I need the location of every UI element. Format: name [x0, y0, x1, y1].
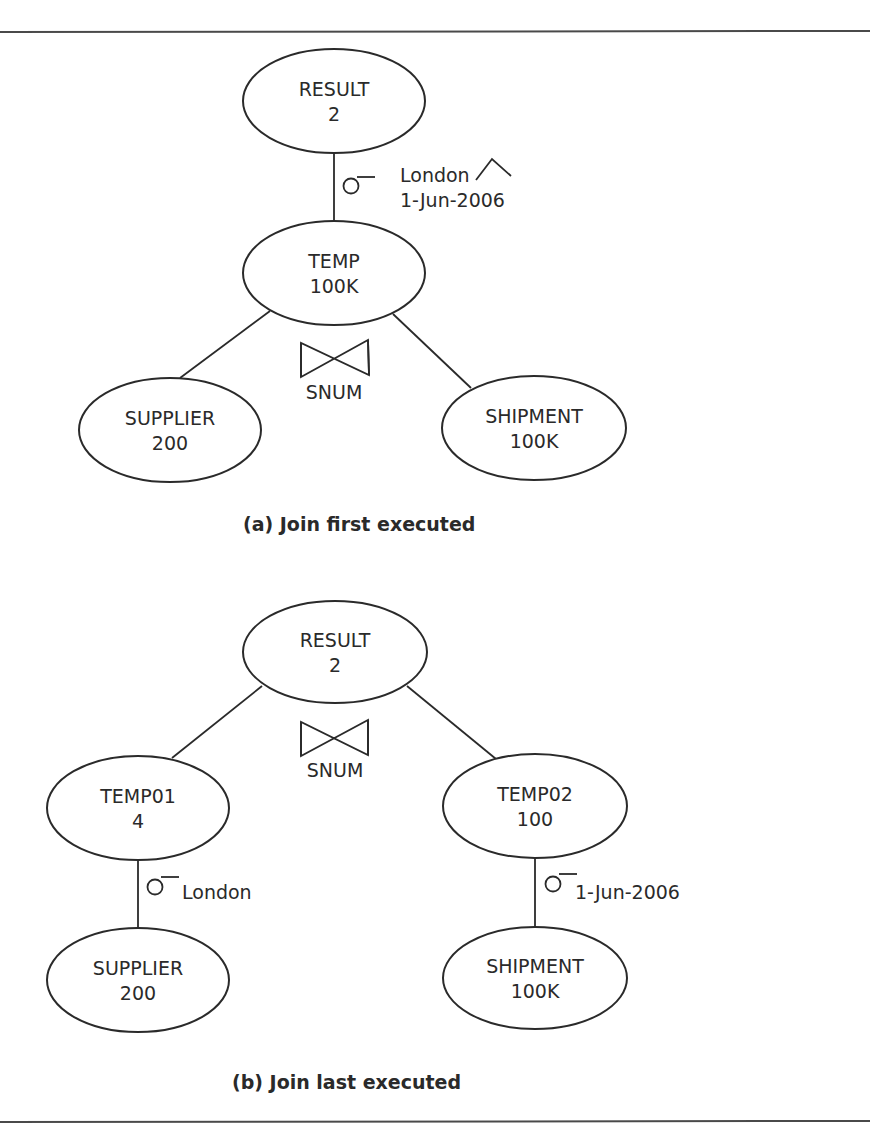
top-rule — [0, 31, 870, 32]
node-name: RESULT — [299, 78, 370, 100]
node-count: 200 — [120, 982, 156, 1004]
node-count: 100K — [510, 430, 559, 452]
node-count: 100K — [511, 980, 560, 1002]
node-name: SHIPMENT — [485, 405, 583, 427]
selection-condition-line1: London — [400, 164, 470, 186]
node-name: SUPPLIER — [93, 957, 183, 979]
node-shipment-b: SHIPMENT 100K — [443, 927, 627, 1029]
node-count: 100 — [517, 808, 553, 830]
selection-sigma-icon — [148, 877, 180, 895]
diagram-a: RESULT 2 London 1-Jun-2006 TEMP 100K SNU… — [79, 49, 626, 535]
node-temp02: TEMP02 100 — [443, 754, 627, 858]
node-supplier-b: SUPPLIER 200 — [47, 928, 229, 1032]
join-attribute: SNUM — [306, 381, 363, 403]
node-name: TEMP01 — [99, 785, 176, 807]
node-shipment-a: SHIPMENT 100K — [442, 376, 626, 480]
node-result-b: RESULT 2 — [243, 601, 427, 703]
logical-and-icon — [476, 159, 511, 180]
query-tree-figure: RESULT 2 London 1-Jun-2006 TEMP 100K SNU… — [0, 0, 881, 1136]
edge-result-temp02 — [407, 686, 496, 759]
caption-a: (a) Join first executed — [243, 513, 475, 535]
bottom-rule — [0, 1121, 870, 1122]
selection-right-condition: 1-Jun-2006 — [575, 881, 680, 903]
node-count: 200 — [152, 432, 188, 454]
node-name: RESULT — [300, 629, 371, 651]
node-name: SHIPMENT — [486, 955, 584, 977]
node-count: 2 — [328, 103, 340, 125]
node-name: TEMP — [307, 250, 359, 272]
selection-sigma-icon — [344, 177, 376, 194]
diagram-b: RESULT 2 SNUM TEMP01 4 TEMP02 100 London — [47, 601, 680, 1093]
node-count: 100K — [310, 275, 359, 297]
selection-sigma-icon — [546, 874, 578, 892]
node-count: 2 — [329, 654, 341, 676]
node-temp: TEMP 100K — [243, 221, 425, 325]
edge-temp-shipment — [393, 314, 471, 388]
selection-condition-line2: 1-Jun-2006 — [400, 189, 505, 211]
node-temp01: TEMP01 4 — [47, 756, 229, 860]
join-bowtie-icon — [301, 720, 368, 756]
node-name: TEMP02 — [496, 783, 573, 805]
edge-result-temp01 — [172, 686, 262, 758]
join-bowtie-icon — [301, 340, 369, 377]
join-attribute: SNUM — [307, 759, 364, 781]
node-result-a: RESULT 2 — [243, 49, 425, 153]
node-count: 4 — [132, 810, 144, 832]
caption-b: (b) Join last executed — [232, 1071, 461, 1093]
selection-left-condition: London — [182, 881, 252, 903]
edge-temp-supplier — [180, 311, 270, 378]
node-supplier-a: SUPPLIER 200 — [79, 378, 261, 482]
node-name: SUPPLIER — [125, 407, 215, 429]
